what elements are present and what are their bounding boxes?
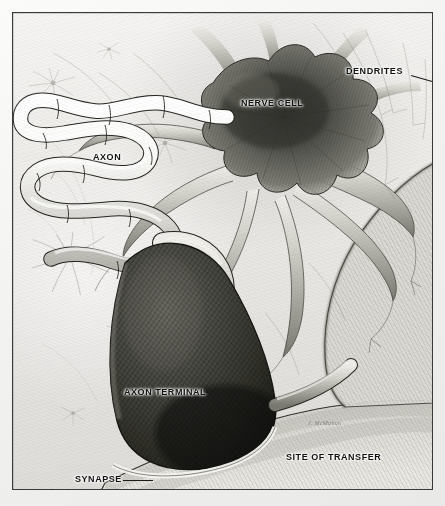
illustration-frame: DENDRITES NERVE CELL AXON AXON TERMINAL …	[12, 12, 433, 490]
illustration-plate: DENDRITES NERVE CELL AXON AXON TERMINAL …	[13, 13, 432, 489]
illustration-page: DENDRITES NERVE CELL AXON AXON TERMINAL …	[0, 0, 445, 506]
paper-grain	[13, 13, 432, 489]
artist-signature: J. McMahon	[308, 420, 341, 426]
